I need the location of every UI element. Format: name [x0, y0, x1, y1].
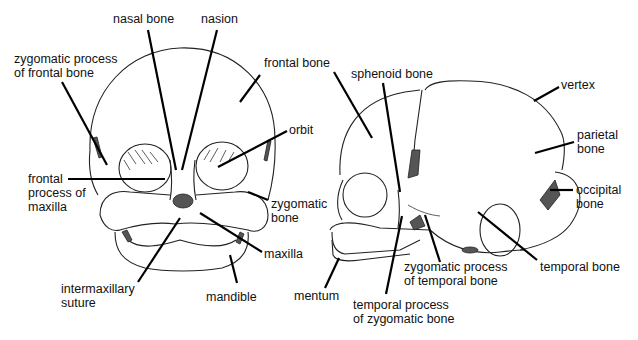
label-frontal-bone-front: frontal bone — [264, 56, 330, 70]
skull-diagram: nasal bone nasion zygomatic process of f… — [0, 0, 638, 340]
label-zygomatic-bone-front: zygomatic bone — [271, 197, 327, 225]
leader-mentum — [325, 258, 339, 288]
label-zygomatic-process-of-temporal-bone: zygomatic process of temporal bone — [404, 260, 508, 288]
leader-mandible — [230, 255, 237, 283]
leader-sphenoid-bone — [383, 83, 400, 192]
leader-zygomatic-bone-front — [248, 192, 268, 200]
label-intermaxillary-suture: intermaxillary suture — [61, 282, 135, 310]
label-parietal-bone: parietal bone — [577, 128, 618, 156]
label-mentum: mentum — [294, 289, 339, 303]
leader-orbit — [218, 131, 287, 167]
label-temporal-process-of-zygomatic-bone: temporal process of zygomatic bone — [353, 298, 454, 326]
label-mandible: mandible — [206, 290, 257, 304]
label-orbit: orbit — [289, 123, 313, 137]
label-frontal-process-of-maxilla: frontal process of maxilla — [28, 172, 86, 214]
label-zygomatic-process-of-frontal-bone: zygomatic process of frontal bone — [14, 52, 118, 80]
label-sphenoid-bone: sphenoid bone — [351, 67, 433, 81]
leader-zygomatic-process-temporal — [425, 215, 440, 262]
label-nasal-bone: nasal bone — [113, 12, 174, 26]
label-vertex: vertex — [561, 78, 595, 92]
leader-zygomatic-process-frontal — [62, 82, 107, 165]
label-occipital-bone: occipital bone — [576, 183, 621, 211]
label-maxilla: maxilla — [264, 247, 303, 261]
leader-intermaxillary-suture — [138, 218, 180, 282]
leader-frontal-bone-side — [334, 72, 372, 138]
side-skull-outline — [330, 81, 580, 261]
leader-nasion — [182, 30, 217, 170]
leader-nasal-bone — [148, 30, 176, 170]
label-nasion: nasion — [201, 12, 238, 26]
leader-parietal-bone — [535, 142, 574, 153]
front-skull-outline — [89, 48, 275, 271]
leader-vertex — [534, 87, 559, 101]
leader-frontal-bone-front — [240, 75, 260, 102]
label-temporal-bone: temporal bone — [540, 260, 620, 274]
